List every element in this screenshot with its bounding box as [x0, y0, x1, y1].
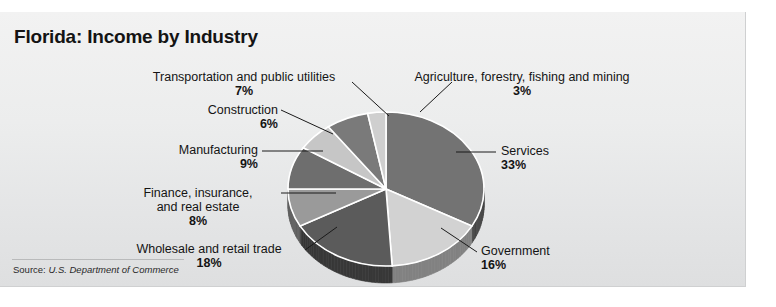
slice-label-government: Government 16%: [481, 244, 631, 272]
slice-label-construction-text: Construction: [130, 103, 278, 117]
slice-label-finance: Finance, insurance, and real estate 8%: [118, 186, 278, 228]
slice-label-transportation: Transportation and public utilities 7%: [136, 70, 352, 98]
source-divider: [12, 259, 184, 260]
slice-label-construction: Construction 6%: [130, 103, 278, 131]
slice-label-manufacturing: Manufacturing 9%: [110, 143, 258, 171]
slice-label-manufacturing-text: Manufacturing: [110, 143, 258, 157]
slice-label-finance-text: Finance, insurance,: [118, 186, 278, 200]
slice-label-services-pct: 33%: [501, 158, 651, 172]
slice-label-construction-pct: 6%: [130, 117, 278, 131]
source-label: Source:: [13, 264, 46, 275]
slice-label-services-text: Services: [501, 144, 651, 158]
slice-label-agriculture-pct: 3%: [389, 84, 655, 98]
slice-label-services: Services 33%: [501, 144, 651, 172]
source-note: Source: U.S. Department of Commerce: [13, 264, 179, 275]
slice-label-wholesale-text: Wholesale and retail trade: [116, 242, 302, 256]
slice-label-government-pct: 16%: [481, 258, 631, 272]
slice-label-transportation-text: Transportation and public utilities: [136, 70, 352, 84]
slice-label-transportation-pct: 7%: [136, 84, 352, 98]
slice-label-agriculture-text: Agriculture, forestry, fishing and minin…: [389, 70, 655, 84]
source-value: U.S. Department of Commerce: [48, 264, 178, 275]
slice-label-finance-text-2: and real estate: [118, 200, 278, 214]
slice-label-finance-pct: 8%: [118, 214, 278, 228]
slice-label-government-text: Government: [481, 244, 631, 258]
slice-label-manufacturing-pct: 9%: [110, 157, 258, 171]
chart-figure: Florida: Income by Industry Transportati…: [0, 12, 746, 287]
slice-label-agriculture: Agriculture, forestry, fishing and minin…: [389, 70, 655, 98]
